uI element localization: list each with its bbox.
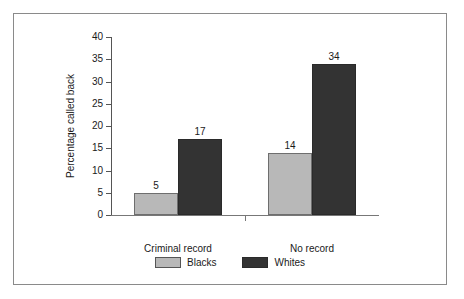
y-axis-tick-mark bbox=[106, 59, 111, 60]
legend-item-whites[interactable]: Whites bbox=[242, 257, 305, 268]
bar-blacks-no-record: 14 bbox=[268, 153, 312, 215]
bar-whites-criminal-record: 17 bbox=[178, 139, 222, 215]
legend-label: Whites bbox=[274, 258, 305, 268]
y-axis-line bbox=[111, 37, 112, 216]
y-axis-tick-mark bbox=[106, 193, 111, 194]
y-axis-tick-label: 10 bbox=[92, 166, 103, 176]
y-axis-tick-label: 35 bbox=[92, 54, 103, 64]
y-axis-tick-label: 0 bbox=[97, 210, 103, 220]
bar-blacks-criminal-record: 5 bbox=[134, 193, 178, 215]
y-axis-tick-mark bbox=[106, 126, 111, 127]
legend-label: Blacks bbox=[187, 258, 216, 268]
y-axis-tick-mark bbox=[106, 104, 111, 105]
y-axis-tick-label: 20 bbox=[92, 121, 103, 131]
bar-whites-no-record: 34 bbox=[312, 64, 356, 215]
bar-value-label: 34 bbox=[328, 52, 339, 62]
y-axis-tick-label: 5 bbox=[97, 188, 103, 198]
bar-value-label: 5 bbox=[153, 181, 159, 191]
chart-legend: BlacksWhites bbox=[14, 257, 446, 268]
y-axis-title: Percentage called back bbox=[64, 37, 78, 215]
y-axis-tick-mark bbox=[106, 82, 111, 83]
x-axis-mid-tick bbox=[245, 216, 246, 221]
y-axis-tick-mark bbox=[106, 148, 111, 149]
legend-swatch-icon bbox=[155, 257, 181, 268]
y-axis-tick-label: 25 bbox=[92, 99, 103, 109]
y-axis-tick-label: 40 bbox=[92, 32, 103, 42]
bar-value-label: 14 bbox=[284, 141, 295, 151]
chart-figure-frame: Percentage called back 0510152025303540 … bbox=[13, 13, 447, 285]
y-axis-tick-label: 30 bbox=[92, 77, 103, 87]
x-axis-category-label: No record bbox=[290, 244, 334, 254]
plot-area: 0510152025303540 5171434 Criminal record… bbox=[111, 37, 379, 215]
x-axis-category-label: Criminal record bbox=[144, 244, 212, 254]
y-axis-tick-mark bbox=[106, 171, 111, 172]
y-axis-tick-mark bbox=[106, 37, 111, 38]
y-axis-tick-mark bbox=[106, 215, 111, 216]
y-axis-tick-label: 15 bbox=[92, 143, 103, 153]
legend-item-blacks[interactable]: Blacks bbox=[155, 257, 216, 268]
bar-value-label: 17 bbox=[194, 127, 205, 137]
legend-swatch-icon bbox=[242, 257, 268, 268]
